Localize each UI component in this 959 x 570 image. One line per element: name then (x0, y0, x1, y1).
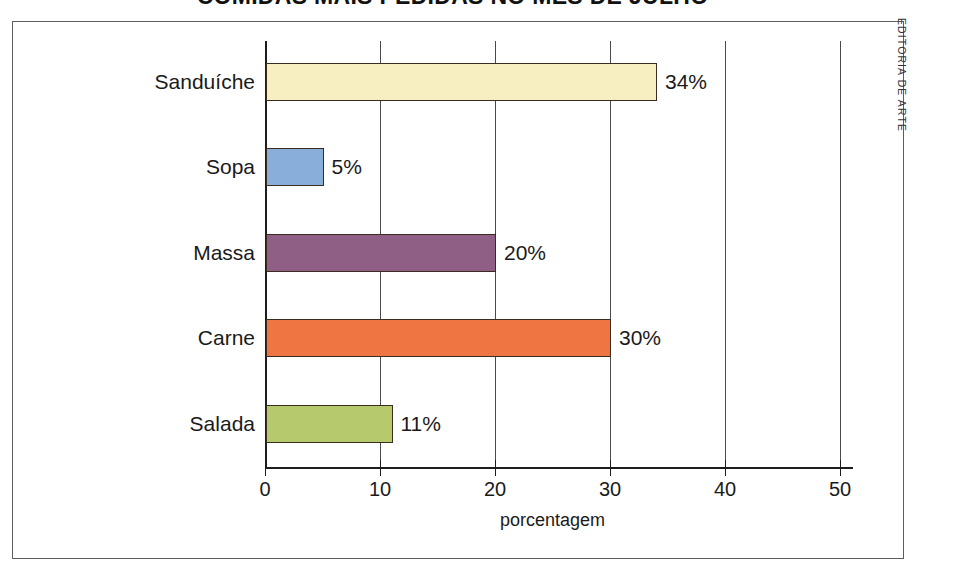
x-tick-mark (495, 460, 496, 476)
x-tick-mark (840, 460, 841, 476)
chart-frame (12, 21, 904, 559)
x-tick-mark (265, 460, 266, 476)
bar (266, 405, 393, 443)
bar-value-label: 11% (392, 405, 441, 443)
x-tick-label: 40 (695, 478, 755, 501)
bar-value-label: 20% (495, 234, 546, 272)
x-tick-mark (380, 460, 381, 476)
x-axis-title: porcentagem (265, 510, 840, 531)
bar-value-label: 34% (656, 63, 707, 101)
category-label: Massa (15, 234, 255, 272)
gridline (610, 41, 611, 468)
credit-label: EDITORIA DE ARTE (896, 18, 908, 218)
bar (266, 63, 657, 101)
chart-title: COMIDAS MAIS PEDIDAS NO MÊS DE JULHO (0, 0, 905, 10)
gridline (840, 41, 841, 468)
x-tick-mark (610, 460, 611, 476)
category-label: Carne (15, 319, 255, 357)
x-tick-label: 10 (350, 478, 410, 501)
x-axis-spine (265, 467, 853, 469)
x-tick-label: 30 (580, 478, 640, 501)
bar (266, 319, 611, 357)
bar-value-label: 5% (323, 148, 362, 186)
category-label: Sopa (15, 148, 255, 186)
bar (266, 234, 496, 272)
gridline (725, 41, 726, 468)
bar (266, 148, 324, 186)
bar-value-label: 30% (610, 319, 661, 357)
x-tick-label: 50 (810, 478, 870, 501)
x-tick-label: 20 (465, 478, 525, 501)
category-label: Sanduíche (15, 63, 255, 101)
category-label: Salada (15, 405, 255, 443)
x-tick-mark (725, 460, 726, 476)
x-tick-label: 0 (235, 478, 295, 501)
